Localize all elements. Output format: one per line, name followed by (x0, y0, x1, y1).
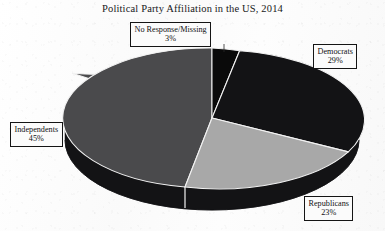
pie-label-republicans-name: Republicans (309, 199, 349, 209)
pie-label-democrats-name: Democrats (318, 47, 353, 57)
pie-label-democrats-percent: 29% (318, 56, 353, 66)
pie-label-republicans: Republicans 23% (304, 196, 353, 221)
pie-label-independents-name: Independents (15, 125, 59, 135)
pie-label-no-response-missing-percent: 3% (135, 34, 207, 44)
pie-label-democrats: Democrats 29% (313, 44, 357, 69)
pie-label-no-response-missing: No Response/Missing 3% (130, 22, 211, 47)
chart-page: Political Party Affiliation in the US, 2… (0, 0, 385, 231)
pie-label-independents-percent: 45% (15, 134, 59, 144)
pie-top-face (63, 48, 365, 189)
pie-label-no-response-missing-name: No Response/Missing (135, 25, 207, 35)
pie-label-republicans-percent: 23% (309, 208, 349, 218)
pie-label-independents: Independents 45% (10, 122, 63, 147)
